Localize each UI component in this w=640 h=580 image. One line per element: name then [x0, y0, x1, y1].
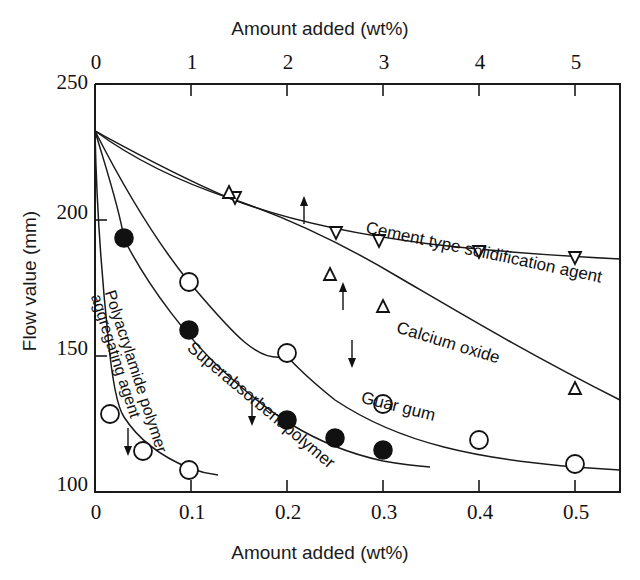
plot-area [0, 0, 640, 580]
curve-cement-type-solidification-agent [95, 131, 620, 259]
arrow-down-polyacrylamide-axis-reference [124, 428, 132, 456]
plot-frame [95, 84, 620, 492]
arrow-up-cement-axis-reference [300, 196, 308, 224]
curve-guar-gum [95, 131, 620, 470]
top-axis-ticks [95, 84, 575, 96]
markers-calcium-oxide [223, 186, 581, 394]
chart-figure: Amount added (wt%) Amount added (wt%) Fl… [0, 0, 640, 580]
bottom-axis-ticks [95, 480, 575, 492]
arrow-up-calcium-axis-reference [339, 282, 347, 310]
arrow-down-guar-axis-reference [348, 340, 356, 368]
y-axis-ticks [95, 84, 107, 492]
